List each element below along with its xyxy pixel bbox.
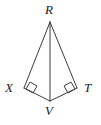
geometry-figure: R X T V [0,0,101,125]
vertex-label-T: T [84,81,91,94]
vertex-label-X: X [5,81,13,94]
segment-RT [50,22,77,88]
vertex-label-V: V [45,104,53,117]
segment-RX [24,22,50,88]
vertex-label-R: R [45,3,53,16]
